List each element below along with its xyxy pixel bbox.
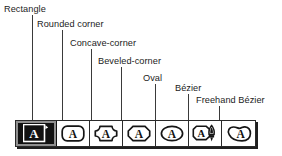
svg-text:A: A <box>69 128 78 140</box>
callout-label-rectangle: Rectangle <box>4 4 46 15</box>
text-frame-shape-toolbar[interactable]: Rectangle A Rounded corner A Concave-cor… <box>15 120 256 147</box>
svg-text:A: A <box>197 128 205 139</box>
callout-label-concave-corner: Concave-corner <box>70 38 136 49</box>
leader-line-beveled-corner <box>121 67 122 120</box>
leader-line-freehand-bezier <box>219 106 220 120</box>
svg-text:A: A <box>135 128 144 140</box>
callout-label-rounded-corner: Rounded corner <box>37 19 104 30</box>
text-frame-rectangle-icon: A <box>23 124 49 143</box>
svg-text:A: A <box>168 128 177 140</box>
text-frame-rounded-icon: A <box>61 125 85 142</box>
text-frame-bezier-pen-icon: A <box>192 124 218 143</box>
text-frame-concave-icon: A <box>94 125 118 142</box>
leader-line-oval <box>155 84 156 120</box>
leader-line-rounded-corner <box>62 30 63 120</box>
callout-label-oval: Oval <box>143 73 162 84</box>
tool-button-freehand-bezier[interactable]: Freehand Bézier A <box>222 121 255 146</box>
svg-text:A: A <box>29 126 39 141</box>
callout-label-bezier: Bézier <box>175 83 201 94</box>
tool-button-oval[interactable]: Oval A <box>156 121 189 146</box>
tool-button-bezier[interactable]: Bézier A <box>189 121 222 146</box>
callout-label-freehand-bezier: Freehand Bézier <box>196 95 265 106</box>
svg-text:A: A <box>236 128 245 140</box>
leader-line-rectangle <box>32 15 33 120</box>
leader-line-concave-corner <box>91 49 92 120</box>
tool-button-rectangle[interactable]: Rectangle A <box>16 121 57 146</box>
text-frame-freehand-bezier-icon: A <box>226 125 252 143</box>
text-frame-oval-icon: A <box>160 125 184 142</box>
tool-button-concave-corner[interactable]: Concave-corner A <box>90 121 123 146</box>
svg-text:A: A <box>102 128 111 140</box>
callout-label-beveled-corner: Beveled-corner <box>98 56 161 67</box>
leader-line-bezier <box>188 94 189 120</box>
figure-stage: Rectangle Rounded corner Concave-corner … <box>0 0 282 156</box>
tool-button-beveled-corner[interactable]: Beveled-corner A <box>123 121 156 146</box>
tool-button-rounded-corner[interactable]: Rounded corner A <box>57 121 90 146</box>
text-frame-beveled-icon: A <box>127 125 151 142</box>
